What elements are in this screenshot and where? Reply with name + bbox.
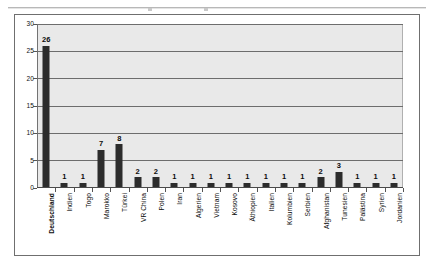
scan-artifact-speck	[204, 8, 208, 11]
bar-group: 1	[165, 24, 183, 187]
bar-group: 1	[183, 24, 201, 187]
bar-value-label: 1	[209, 173, 213, 181]
x-tick-mark	[55, 188, 56, 192]
bar-group: 1	[74, 24, 92, 187]
bar-group: 26	[37, 24, 55, 187]
bar-group: 7	[92, 24, 110, 187]
bar	[189, 183, 196, 187]
x-tick-mark	[92, 188, 93, 192]
bar-value-label: 8	[117, 135, 121, 143]
bar	[79, 183, 86, 187]
x-tick-mark	[312, 188, 313, 192]
bar	[152, 177, 159, 187]
bar-value-label: 1	[373, 173, 377, 181]
bar-value-label: 1	[227, 173, 231, 181]
x-axis-label-tunesien: Tunesien	[342, 193, 349, 221]
bars-group: 261178221111111123111	[37, 24, 403, 188]
x-tick-mark	[110, 188, 111, 192]
bar	[372, 183, 379, 187]
bar-group: 1	[220, 24, 238, 187]
bar-value-label: 2	[154, 168, 158, 176]
x-axis-label-italien: Italien	[269, 193, 276, 211]
x-axis-label-afghanistan: Afghanistan	[324, 193, 331, 229]
bar	[116, 144, 123, 187]
x-axis-label-marokko: Marokko	[104, 193, 111, 219]
bar-value-label: 7	[99, 140, 103, 148]
bar-group: 8	[110, 24, 128, 187]
x-tick-mark	[74, 188, 75, 192]
bar-value-label: 1	[282, 173, 286, 181]
x-axis-label-togo: Togo	[86, 193, 93, 208]
x-axis-category-labels: DeutschlandIndienTogoMarokkoTürkeiVR Chi…	[37, 193, 403, 253]
x-axis-label-vietnam: Vietnam	[214, 193, 221, 218]
bar-group: 1	[366, 24, 384, 187]
bar-value-label: 2	[136, 168, 140, 176]
bar	[98, 150, 105, 187]
x-tick-mark	[293, 188, 294, 192]
bar-group: 2	[312, 24, 330, 187]
bar	[207, 183, 214, 187]
x-axis-label-algerien: Algerien	[196, 193, 203, 218]
x-axis-label-polen: Polen	[159, 193, 166, 210]
bar-group: 1	[348, 24, 366, 187]
x-axis-label-syrien: Syrien	[379, 193, 386, 212]
bar-group: 1	[55, 24, 73, 187]
bar-value-label: 1	[264, 173, 268, 181]
x-axis-label-vr-china: VR China	[141, 193, 148, 222]
x-tick-mark	[348, 188, 349, 192]
x-tick-mark	[366, 188, 367, 192]
y-axis-tick-labels: 051015202530	[15, 24, 34, 188]
x-axis-label--thiopien: Äthiopien	[250, 193, 257, 221]
x-tick-mark	[275, 188, 276, 192]
x-axis-label-pal-stina: Palästina	[360, 193, 367, 221]
x-tick-mark	[183, 188, 184, 192]
x-tick-mark	[202, 188, 203, 192]
page-top-rule	[8, 7, 426, 9]
x-tick-mark	[238, 188, 239, 192]
bar-value-label: 26	[42, 36, 50, 44]
bar	[61, 183, 68, 187]
bar	[335, 172, 342, 187]
x-tick-mark	[403, 188, 404, 192]
bar-value-label: 1	[172, 173, 176, 181]
x-axis-label-indien: Indien	[67, 193, 74, 212]
x-tick-mark	[330, 188, 331, 192]
x-axis-label-serbien: Serbien	[305, 193, 312, 216]
bar-group: 3	[330, 24, 348, 187]
bar-value-label: 1	[392, 173, 396, 181]
bar-group: 1	[275, 24, 293, 187]
x-axis-label-iran: Iran	[177, 193, 184, 205]
x-axis-label-deutschland: Deutschland	[49, 193, 56, 234]
bar	[226, 183, 233, 187]
scan-artifact-speck	[148, 8, 152, 11]
bar-group: 2	[147, 24, 165, 187]
chart-figure-frame: 051015202530 261178221111111123111 Deuts…	[14, 14, 420, 256]
x-tick-mark	[147, 188, 148, 192]
bar	[262, 183, 269, 187]
bar-group: 1	[202, 24, 220, 187]
x-tick-mark	[165, 188, 166, 192]
bar	[354, 183, 361, 187]
bar	[171, 183, 178, 187]
bar-value-label: 1	[81, 173, 85, 181]
x-tick-mark	[220, 188, 221, 192]
bar-group: 2	[129, 24, 147, 187]
bar	[244, 183, 251, 187]
bar-value-label: 3	[337, 162, 341, 170]
bar	[43, 46, 50, 187]
bar-value-label: 1	[300, 173, 304, 181]
x-tick-mark	[257, 188, 258, 192]
bar	[390, 183, 397, 187]
bar	[299, 183, 306, 187]
bar	[134, 177, 141, 187]
bar-value-label: 2	[319, 168, 323, 176]
bar-value-label: 1	[62, 173, 66, 181]
x-axis-label-t-rkei: Türkei	[122, 193, 129, 212]
bar-group: 1	[385, 24, 403, 187]
bar-value-label: 1	[245, 173, 249, 181]
bar	[317, 177, 324, 187]
x-tick-mark	[129, 188, 130, 192]
x-tick-mark	[385, 188, 386, 192]
x-axis-label-kolumbien: Kolumbien	[287, 193, 294, 225]
x-axis-tick-marks	[37, 188, 403, 192]
